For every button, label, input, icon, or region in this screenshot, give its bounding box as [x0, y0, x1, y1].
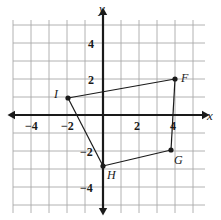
- x-axis-label: x: [207, 108, 213, 124]
- y-axis-tick-4: 4: [88, 37, 94, 52]
- coordinate-plane-figure: x y −4−22442−2−4 FGHI: [0, 0, 221, 220]
- vertex-label-f: F: [181, 71, 188, 86]
- y-axis-tick-neg2: −2: [80, 145, 93, 160]
- vertex-label-h: H: [107, 168, 116, 183]
- vertex-label-i: I: [54, 87, 58, 102]
- grid-lines: [13, 20, 205, 213]
- x-axis-tick-neg4: −4: [25, 119, 38, 134]
- x-axis-tick-2: 2: [134, 119, 140, 134]
- axis-lines: [8, 8, 210, 216]
- graph-canvas: [0, 0, 221, 220]
- y-axis-tick-neg4: −4: [80, 181, 93, 196]
- y-axis-tick-2: 2: [88, 73, 94, 88]
- x-axis-tick-4: 4: [170, 119, 176, 134]
- x-axis-tick-neg2: −2: [61, 119, 74, 134]
- y-axis-label: y: [99, 1, 105, 17]
- vertex-label-g: G: [174, 153, 183, 168]
